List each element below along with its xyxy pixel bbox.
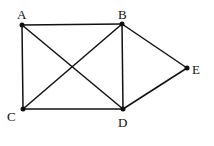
node-label-e: E <box>192 62 200 77</box>
node-label-c: C <box>7 109 16 124</box>
node-label-a: A <box>17 7 27 22</box>
node-label-b: B <box>118 7 127 22</box>
node-b <box>120 22 125 27</box>
edge-a-b <box>22 24 122 25</box>
node-d <box>121 107 126 112</box>
node-e <box>185 66 190 71</box>
edge-d-e <box>123 68 187 109</box>
edge-a-c <box>22 25 23 109</box>
edge-b-d <box>122 24 123 109</box>
node-c <box>21 107 26 112</box>
node-label-d: D <box>118 115 127 130</box>
edges <box>22 24 187 109</box>
edge-b-e <box>122 24 187 68</box>
nodes <box>20 22 190 112</box>
graph-diagram: ABECD <box>0 0 214 146</box>
node-a <box>20 23 25 28</box>
